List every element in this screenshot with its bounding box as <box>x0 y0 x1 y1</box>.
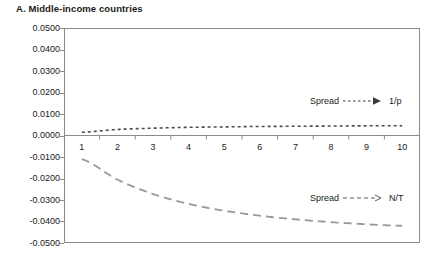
legend-1p-label: Spread <box>310 96 339 106</box>
y-tick-label: 0.0300 <box>2 67 60 76</box>
legend-item-nt: Spread N/T <box>310 193 404 203</box>
y-tick-label: 0.0000 <box>2 131 60 140</box>
y-tick-label: 0.0200 <box>2 88 60 97</box>
legend-nt-label: Spread <box>310 193 339 203</box>
y-tick-label: 0.0100 <box>2 110 60 119</box>
x-tick-label: 3 <box>141 143 165 152</box>
x-tick-label: 7 <box>283 143 307 152</box>
y-tick-mark <box>60 243 64 244</box>
y-axis-labels: 0.05000.04000.03000.02000.01000.0000-0.0… <box>0 0 60 262</box>
x-tick-label: 5 <box>212 143 236 152</box>
series-line-1p <box>82 126 402 132</box>
x-tick-label: 9 <box>355 143 379 152</box>
y-tick-label: -0.0200 <box>2 174 60 183</box>
y-tick-label: -0.0300 <box>2 196 60 205</box>
x-tick-label: 6 <box>248 143 272 152</box>
y-tick-label: 0.0400 <box>2 45 60 54</box>
y-tick-label: -0.0100 <box>2 153 60 162</box>
plot-area <box>64 28 420 243</box>
y-tick-label: -0.0500 <box>2 239 60 248</box>
x-axis-ticks <box>64 136 420 140</box>
x-tick-label: 8 <box>319 143 343 152</box>
legend-1p-target: 1/p <box>389 96 402 106</box>
legend-item-1p: Spread 1/p <box>310 96 402 106</box>
y-tick-label: -0.0400 <box>2 217 60 226</box>
x-tick-label: 4 <box>177 143 201 152</box>
dashed-arrow-icon <box>343 193 385 203</box>
x-tick-label: 2 <box>105 143 129 152</box>
x-tick-label: 1 <box>70 143 94 152</box>
y-tick-label: 0.0500 <box>2 24 60 33</box>
legend-nt-target: N/T <box>389 193 404 203</box>
dotted-arrow-icon <box>343 96 385 106</box>
x-tick-label: 10 <box>390 143 414 152</box>
